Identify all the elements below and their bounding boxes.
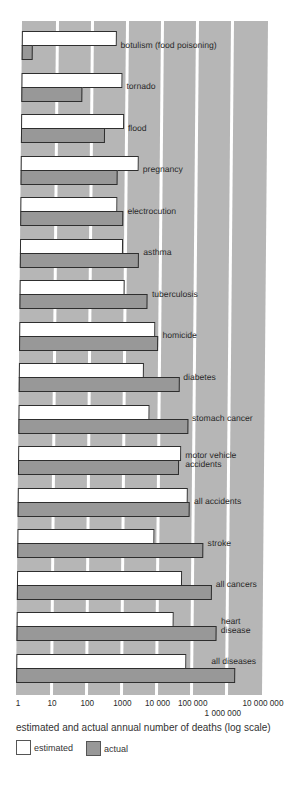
- category-label: all accidents: [194, 497, 241, 506]
- category-label-line: all diseases: [211, 657, 256, 666]
- bar-actual: [21, 87, 82, 102]
- legend-swatch-actual: [86, 741, 101, 756]
- x-tick-label: 100: [80, 699, 94, 708]
- x-tick-label: 1000: [113, 699, 131, 708]
- category-label-line: asthma: [143, 248, 171, 257]
- bar-estimated: [18, 488, 188, 503]
- category-label-line: homicide: [162, 331, 196, 340]
- bar-actual: [20, 253, 140, 268]
- x-tick-label: 10 000: [145, 699, 170, 708]
- category-label-line: stomach cancer: [192, 414, 253, 423]
- bar-estimated: [17, 529, 154, 544]
- category-label-line: diabetes: [183, 373, 216, 382]
- bar-estimated: [22, 31, 117, 46]
- chart-plot-area: botulism (food poisoning)tornadofloodpre…: [0, 0, 302, 700]
- category-label: flood: [128, 124, 147, 133]
- category-label-line: accidents: [185, 460, 236, 469]
- category-label: botulism (food poisoning): [121, 41, 217, 50]
- bar-actual: [18, 419, 188, 434]
- category-label-line: pregnancy: [143, 165, 183, 174]
- category-label-line: stroke: [208, 539, 231, 548]
- bar-estimated: [18, 446, 181, 461]
- category-label: all cancers: [216, 580, 257, 589]
- x-tick-label: 10: [48, 699, 57, 708]
- category-label-line: all accidents: [194, 497, 241, 506]
- x-tick-label: 10 000 000: [242, 699, 283, 708]
- bar-estimated: [20, 239, 123, 254]
- category-label-line: tornado: [126, 82, 155, 91]
- legend-swatch-estimated: [16, 740, 31, 755]
- bar-actual: [20, 211, 123, 226]
- category-label-line: flood: [128, 124, 147, 133]
- category-label: motor vehicleaccidents: [185, 451, 236, 469]
- x-tick-label: 100 000: [178, 699, 208, 708]
- category-label-line: tuberculosis: [152, 290, 198, 299]
- bar-estimated: [21, 73, 122, 88]
- bar-actual: [19, 336, 158, 351]
- bar-estimated: [19, 363, 144, 378]
- bar-actual: [16, 668, 235, 683]
- bar-estimated: [18, 405, 149, 420]
- bar-estimated: [21, 156, 139, 171]
- bar-actual: [19, 294, 147, 309]
- category-label: pregnancy: [143, 165, 183, 174]
- bar-actual: [16, 626, 216, 641]
- bar-estimated: [21, 114, 124, 129]
- bar-actual: [19, 377, 180, 392]
- bar-actual: [18, 460, 179, 475]
- bar-actual: [18, 502, 190, 517]
- x-tick-label: 1: [16, 699, 21, 708]
- bar-actual: [17, 543, 203, 558]
- bar-estimated: [17, 571, 182, 586]
- bar-actual: [17, 585, 212, 600]
- category-label-line: all cancers: [216, 580, 257, 589]
- category-label: asthma: [143, 248, 171, 257]
- category-label: all diseases: [211, 657, 256, 666]
- category-label: stomach cancer: [192, 414, 253, 423]
- category-label-line: disease: [221, 626, 251, 635]
- x-axis-title: estimated and actual annual number of de…: [16, 722, 271, 733]
- bar-estimated: [17, 612, 174, 627]
- grid-stripe: [228, 21, 268, 695]
- bar-estimated: [20, 280, 126, 295]
- bar-actual: [21, 128, 105, 143]
- category-label: diabetes: [183, 373, 216, 382]
- legend-label-actual: actual: [104, 744, 128, 754]
- bar-actual: [21, 170, 118, 185]
- category-label-line: electrocution: [127, 207, 176, 216]
- legend-label-estimated: estimated: [34, 743, 73, 753]
- bar-actual: [22, 45, 33, 60]
- category-label: heartdisease: [221, 617, 251, 635]
- category-label: tornado: [126, 82, 155, 91]
- category-label: homicide: [162, 331, 196, 340]
- category-label: tuberculosis: [152, 290, 198, 299]
- category-label: electrocution: [127, 207, 176, 216]
- bar-estimated: [16, 654, 186, 669]
- category-label-line: botulism (food poisoning): [121, 41, 217, 50]
- bar-estimated: [19, 322, 155, 337]
- x-tick-label: 1 000 000: [205, 709, 241, 718]
- category-label: stroke: [208, 539, 231, 548]
- bar-estimated: [20, 197, 117, 212]
